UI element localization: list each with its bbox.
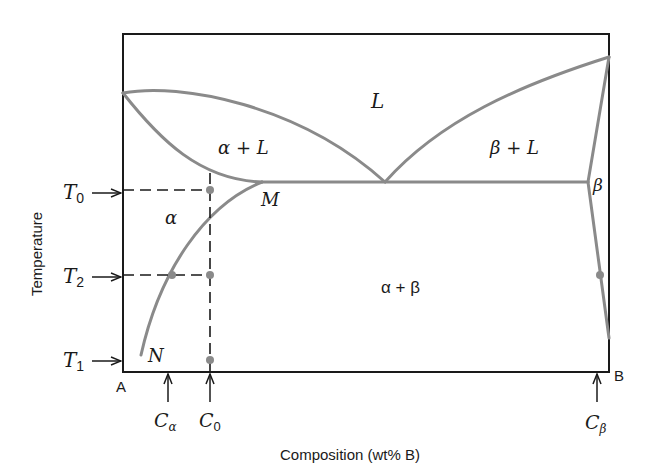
point-c0-t1 <box>206 356 214 364</box>
liquidus-right <box>385 57 609 182</box>
region-label-alpha: α <box>165 207 177 228</box>
region-label-alpha-beta: α + β <box>381 278 420 297</box>
x-axis-label: Composition (wt% B) <box>280 446 420 463</box>
region-label-alpha-liquid: α + L <box>218 137 269 158</box>
component-b-label: B <box>614 367 624 384</box>
y-axis-label: Temperature <box>28 212 45 296</box>
c0-arrow-icon <box>206 374 214 402</box>
point-cbeta-t2 <box>596 271 604 279</box>
plot-frame <box>123 34 609 372</box>
point-c0-t0 <box>206 186 214 194</box>
t1-label: T1 <box>63 348 84 374</box>
solvus-beta <box>588 182 609 338</box>
c0-label: C0 <box>199 409 221 434</box>
component-a-label: A <box>116 378 126 395</box>
point-calpha-t2 <box>168 271 176 279</box>
point-label-n: N <box>147 345 165 366</box>
cbeta-label: Cβ <box>585 411 607 436</box>
region-label-beta-liquid: β + L <box>489 137 539 158</box>
t2-label: T2 <box>63 264 84 290</box>
cbeta-arrow-icon <box>593 374 601 402</box>
region-label-beta: β <box>592 175 603 195</box>
region-label-liquid: L <box>370 89 384 113</box>
point-label-m: M <box>260 189 280 210</box>
solvus-alpha <box>141 182 262 355</box>
point-c0-t2 <box>206 271 214 279</box>
calpha-arrow-icon <box>164 374 172 402</box>
t0-label: T0 <box>63 180 84 206</box>
solidus-right <box>588 57 609 182</box>
phase-diagram: L α + L β + L α β α + β M N T0 T2 T1 Cα … <box>0 0 648 473</box>
calpha-label: Cα <box>154 409 177 434</box>
